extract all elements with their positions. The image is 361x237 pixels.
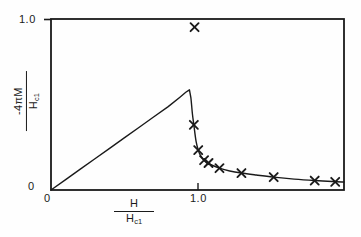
- axes-border: [51, 19, 344, 190]
- chart-canvas: [0, 0, 361, 237]
- series-theoretical-curve: [51, 90, 344, 190]
- x-axis-tick-label-origin: 0: [44, 192, 51, 204]
- data-point-marker: [194, 146, 202, 154]
- tick-marks: [44, 20, 198, 191]
- x-axis-title-denominator-base: H: [126, 212, 134, 224]
- x-axis-title-denominator: Hc1: [114, 212, 154, 225]
- plot-frame: [51, 19, 344, 190]
- y-axis-tick-label-bottom: 0: [28, 180, 35, 192]
- y-axis-title: -4πM Hc1: [13, 71, 39, 131]
- data-point-marker: [191, 23, 199, 31]
- y-axis-title-denominator: Hc1: [27, 71, 40, 131]
- x-axis-title: H Hc1: [114, 198, 154, 224]
- y-axis-tick-label-top: 1.0: [19, 13, 36, 25]
- data-curve-group: [51, 90, 344, 190]
- data-point-marker: [215, 164, 223, 172]
- x-axis-title-numerator: H: [114, 198, 154, 211]
- figure-container: 1.0 0 0 1.0 -4πM Hc1 H Hc1: [0, 0, 361, 237]
- series-measured-data-points: [190, 23, 339, 186]
- y-axis-title-denominator-base: H: [27, 101, 39, 109]
- x-axis-title-denominator-subscript: c1: [134, 217, 142, 226]
- y-axis-title-numerator: -4πM: [13, 71, 26, 131]
- y-axis-title-denominator-subscript: c1: [32, 93, 41, 101]
- x-axis-tick-label-one: 1.0: [190, 192, 207, 204]
